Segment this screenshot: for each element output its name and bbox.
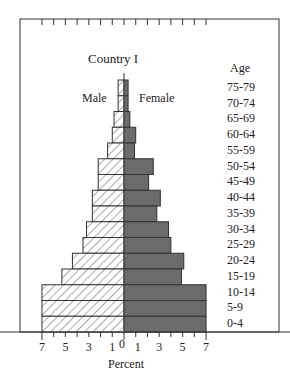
- female-label: Female: [139, 91, 174, 106]
- age-label: 40-44: [227, 190, 255, 205]
- age-label: 45-49: [227, 174, 255, 189]
- female-bar: [124, 127, 136, 143]
- male-bar: [42, 316, 124, 332]
- age-label: 35-39: [227, 206, 255, 221]
- age-label: 60-64: [227, 127, 255, 142]
- x-tick-label: 1: [135, 340, 141, 355]
- male-bar: [92, 206, 124, 222]
- age-label: 15-19: [227, 269, 255, 284]
- age-label: 5-9: [227, 300, 243, 315]
- female-bar: [124, 238, 171, 254]
- male-bar: [42, 301, 124, 317]
- female-bar: [124, 222, 169, 238]
- male-bar: [98, 175, 124, 191]
- male-bar: [72, 253, 124, 269]
- male-bar: [86, 222, 124, 238]
- age-axis-title: Age: [230, 61, 250, 76]
- female-bar: [124, 316, 206, 332]
- male-bar: [108, 143, 124, 159]
- male-bar: [112, 127, 124, 143]
- x-tick-label: 3: [86, 340, 92, 355]
- female-bar: [124, 96, 128, 112]
- female-bar: [124, 269, 181, 285]
- male-label: Male: [82, 91, 107, 106]
- female-bar: [124, 190, 160, 206]
- female-bar: [124, 285, 206, 301]
- female-bar: [124, 175, 149, 191]
- bars-group: [42, 80, 206, 332]
- age-label: 0-4: [227, 316, 243, 331]
- x-tick-label: 5: [62, 340, 68, 355]
- x-axis-ticks: [0, 332, 290, 340]
- age-label: 25-29: [227, 237, 255, 252]
- female-bar: [124, 143, 135, 159]
- x-tick-label: 0: [119, 337, 125, 352]
- chart-title: Country I: [88, 51, 138, 67]
- age-label: 30-34: [227, 222, 255, 237]
- female-bar: [124, 112, 130, 128]
- age-label: 70-74: [227, 96, 255, 111]
- male-bar: [62, 269, 124, 285]
- x-tick-label: 7: [39, 340, 45, 355]
- female-bar: [124, 253, 184, 269]
- male-bar: [98, 159, 124, 175]
- x-axis-title: Percent: [108, 357, 144, 372]
- top-tick-marks: [42, 19, 206, 25]
- male-bar: [42, 285, 124, 301]
- male-bar: [118, 80, 124, 96]
- male-bar: [114, 112, 124, 128]
- male-bar: [92, 190, 124, 206]
- male-bar: [83, 238, 124, 254]
- female-bar: [124, 159, 153, 175]
- age-label: 75-79: [227, 80, 255, 95]
- x-tick-label: 3: [156, 340, 162, 355]
- male-bar: [118, 96, 124, 112]
- age-label: 65-69: [227, 111, 255, 126]
- x-tick-label: 7: [203, 340, 209, 355]
- age-label: 55-59: [227, 143, 255, 158]
- age-label: 50-54: [227, 159, 255, 174]
- female-bar: [124, 301, 206, 317]
- x-tick-label: 1: [109, 340, 115, 355]
- age-label: 20-24: [227, 253, 255, 268]
- female-bar: [124, 206, 157, 222]
- x-tick-label: 5: [180, 340, 186, 355]
- female-bar: [124, 80, 128, 96]
- age-label: 10-14: [227, 285, 255, 300]
